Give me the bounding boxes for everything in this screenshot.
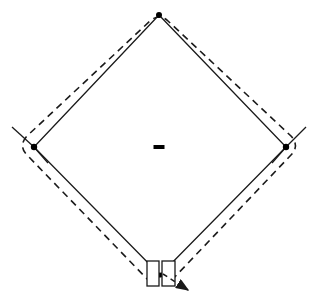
right-batters-box-icon	[162, 261, 175, 286]
base-markers-group	[31, 12, 289, 278]
left-batters-box-icon	[147, 261, 159, 286]
pitchers-rubber-group	[154, 145, 165, 149]
first-base-marker-icon	[283, 144, 289, 150]
outfield-fence-icon	[23, 17, 296, 283]
pitchers-rubber-icon	[154, 145, 165, 149]
third-base-foul-extension-icon	[12, 127, 34, 147]
third-base-marker-icon	[31, 144, 37, 150]
field-svg: Baseball Diamond Field Diagram	[0, 0, 318, 304]
second-base-marker-icon	[156, 12, 162, 18]
baseball-diamond-diagram: Baseball Diamond Field Diagram	[0, 0, 318, 304]
outfield-fence-group	[23, 17, 296, 283]
